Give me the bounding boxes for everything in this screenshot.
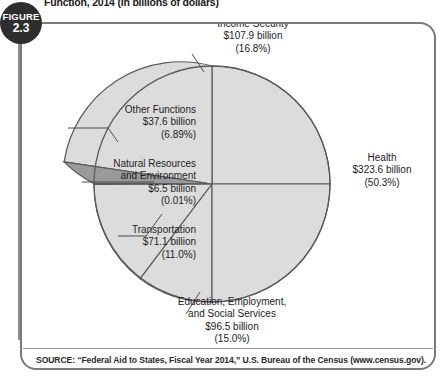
- figure-panel: Income Security $107.9 billion (16.8%) H…: [20, 22, 436, 370]
- source-divider: [23, 348, 433, 349]
- figure-badge: FIGURE 2.3: [0, 2, 42, 44]
- figure-panel-inner: Income Security $107.9 billion (16.8%) H…: [22, 24, 434, 368]
- label-natural-resources: Natural Resources and Environment $6.5 b…: [36, 158, 196, 208]
- figure-badge-number: 2.3: [13, 22, 30, 34]
- figure-badge-label: FIGURE: [2, 12, 39, 22]
- label-health: Health $323.6 billion (50.3%): [322, 152, 434, 189]
- pie-slice-health: [212, 66, 330, 184]
- label-education: Education, Employment, and Social Servic…: [134, 296, 330, 346]
- figure-title: Function, 2014 (in billions of dollars): [44, 0, 344, 8]
- pie-slice-health-lower: [212, 184, 330, 302]
- label-income-security: Income Security $107.9 billion (16.8%): [168, 24, 338, 55]
- source-note: SOURCE: “Federal Aid to States, Fiscal Y…: [36, 355, 424, 365]
- figure-container: Function, 2014 (in billions of dollars) …: [0, 0, 448, 382]
- label-transportation: Transportation $71.1 billion (11.0%): [58, 224, 196, 261]
- label-other-functions: Other Functions $37.6 billion (6.89%): [50, 104, 196, 141]
